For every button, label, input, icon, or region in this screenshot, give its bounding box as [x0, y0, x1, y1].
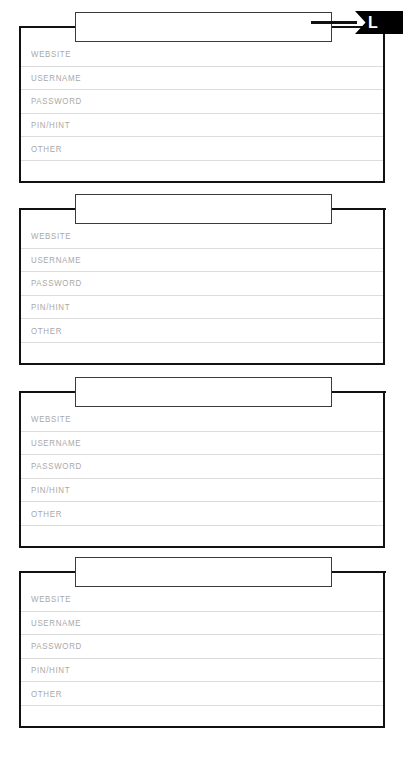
table-row[interactable]: OTHER — [21, 682, 383, 706]
card-title-field[interactable] — [75, 377, 332, 407]
table-row[interactable]: PIN/HINT — [21, 114, 383, 138]
row-label-pin-hint: PIN/HINT — [31, 302, 70, 312]
card-title-text[interactable] — [76, 558, 331, 586]
card-rows: WEBSITE USERNAME PASSWORD PIN/HINT OTHER — [21, 210, 383, 363]
card-rows: WEBSITE USERNAME PASSWORD PIN/HINT OTHER — [21, 28, 383, 181]
table-row[interactable]: OTHER — [21, 319, 383, 343]
row-label-website: WEBSITE — [31, 231, 71, 241]
alphabet-index-tab[interactable]: L — [355, 11, 403, 34]
row-label-username: USERNAME — [31, 73, 81, 83]
card-title-field[interactable] — [75, 557, 332, 587]
index-tab-letter: L — [368, 11, 378, 34]
row-label-website: WEBSITE — [31, 594, 71, 604]
row-label-password: PASSWORD — [31, 461, 82, 471]
row-label-other: OTHER — [31, 689, 62, 699]
table-row[interactable]: PASSWORD — [21, 455, 383, 479]
index-tab-connector — [311, 21, 357, 24]
row-label-username: USERNAME — [31, 618, 81, 628]
table-row[interactable] — [21, 706, 383, 726]
row-label-username: USERNAME — [31, 438, 81, 448]
table-row[interactable]: WEBSITE — [21, 43, 383, 67]
table-row[interactable]: USERNAME — [21, 432, 383, 456]
row-label-website: WEBSITE — [31, 49, 71, 59]
row-label-pin-hint: PIN/HINT — [31, 665, 70, 675]
row-label-pin-hint: PIN/HINT — [31, 485, 70, 495]
table-row[interactable]: USERNAME — [21, 67, 383, 91]
card-rows: WEBSITE USERNAME PASSWORD PIN/HINT OTHER — [21, 573, 383, 726]
row-label-password: PASSWORD — [31, 96, 82, 106]
row-label-other: OTHER — [31, 326, 62, 336]
table-row[interactable]: WEBSITE — [21, 408, 383, 432]
row-label-password: PASSWORD — [31, 278, 82, 288]
table-row[interactable]: OTHER — [21, 502, 383, 526]
table-row[interactable] — [21, 526, 383, 546]
row-label-username: USERNAME — [31, 255, 81, 265]
credential-card: WEBSITE USERNAME PASSWORD PIN/HINT OTHER — [19, 210, 385, 365]
table-row[interactable]: PASSWORD — [21, 272, 383, 296]
table-row[interactable]: WEBSITE — [21, 588, 383, 612]
row-label-website: WEBSITE — [31, 414, 71, 424]
table-row[interactable]: PIN/HINT — [21, 296, 383, 320]
table-row[interactable]: PIN/HINT — [21, 479, 383, 503]
card-rows: WEBSITE USERNAME PASSWORD PIN/HINT OTHER — [21, 393, 383, 546]
table-row[interactable]: PASSWORD — [21, 90, 383, 114]
table-row[interactable]: USERNAME — [21, 249, 383, 273]
table-row[interactable]: PASSWORD — [21, 635, 383, 659]
table-row[interactable] — [21, 343, 383, 363]
table-row[interactable]: PIN/HINT — [21, 659, 383, 683]
password-log-sheet: WEBSITE USERNAME PASSWORD PIN/HINT OTHER — [0, 0, 403, 761]
card-title-text[interactable] — [76, 195, 331, 223]
card-title-text[interactable] — [76, 378, 331, 406]
table-row[interactable] — [21, 161, 383, 181]
table-row[interactable]: OTHER — [21, 137, 383, 161]
credential-card: WEBSITE USERNAME PASSWORD PIN/HINT OTHER — [19, 28, 385, 183]
credential-card: WEBSITE USERNAME PASSWORD PIN/HINT OTHER — [19, 573, 385, 728]
row-label-pin-hint: PIN/HINT — [31, 120, 70, 130]
table-row[interactable]: WEBSITE — [21, 225, 383, 249]
card-title-text[interactable] — [76, 13, 331, 41]
row-label-password: PASSWORD — [31, 641, 82, 651]
table-row[interactable]: USERNAME — [21, 612, 383, 636]
card-title-field[interactable] — [75, 12, 332, 42]
row-label-other: OTHER — [31, 144, 62, 154]
credential-card: WEBSITE USERNAME PASSWORD PIN/HINT OTHER — [19, 393, 385, 548]
card-title-field[interactable] — [75, 194, 332, 224]
row-label-other: OTHER — [31, 509, 62, 519]
